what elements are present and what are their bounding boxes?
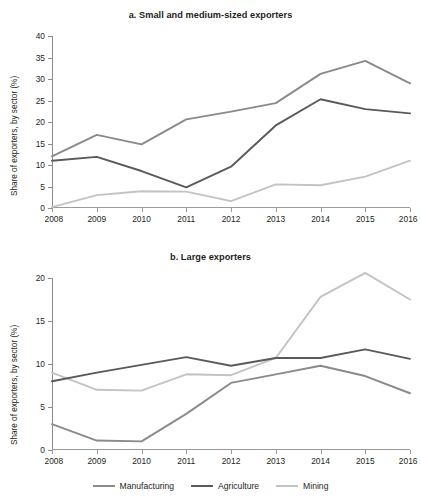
chart-a-x-tick xyxy=(365,208,366,212)
legend-item-mining[interactable]: Mining xyxy=(276,481,328,491)
chart-a-y-tick-label: 40 xyxy=(36,31,45,41)
legend-line-swatch-icon xyxy=(276,485,298,487)
legend-item-label: Manufacturing xyxy=(120,481,174,491)
chart-b-x-tick-label: 2013 xyxy=(266,456,285,466)
chart-b-x-tick xyxy=(365,450,366,454)
chart-a-y-axis-label: Share of exporters, by sector (%) xyxy=(10,76,19,196)
chart-b-x-tick-label: 2015 xyxy=(356,456,375,466)
chart-b-x-tick xyxy=(231,450,232,454)
chart-a-y-tick-label: 0 xyxy=(40,203,45,213)
chart-b-line-manufacturing xyxy=(52,366,410,442)
chart-b-y-tick xyxy=(48,407,52,408)
chart-b-y-axis-label: Share of exporters, by sector (%) xyxy=(10,325,19,445)
chart-a-y-tick xyxy=(48,122,52,123)
chart-a-y-tick xyxy=(48,101,52,102)
chart-b-x-tick-label: 2012 xyxy=(222,456,241,466)
chart-a-x-tick-label: 2013 xyxy=(266,214,285,224)
legend-item-label: Agriculture xyxy=(218,481,259,491)
chart-a-x-tick xyxy=(410,208,411,212)
chart-a-y-tick xyxy=(48,165,52,166)
chart-a-x-tick xyxy=(52,208,53,212)
chart-a-x-tick xyxy=(276,208,277,212)
chart-b-series-lines xyxy=(52,278,410,450)
chart-a-y-tick xyxy=(48,144,52,145)
chart-b-x-tick xyxy=(52,450,53,454)
chart-a-y-tick xyxy=(48,58,52,59)
chart-a-y-tick xyxy=(48,36,52,37)
chart-a-x-tick-label: 2009 xyxy=(87,214,106,224)
chart-b-x-tick-label: 2008 xyxy=(45,456,64,466)
chart-a-x-tick-label: 2014 xyxy=(311,214,330,224)
chart-a-y-tick-label: 15 xyxy=(36,139,45,149)
chart-b-x-tick-label: 2010 xyxy=(132,456,151,466)
chart-a-y-tick-label: 10 xyxy=(36,160,45,170)
chart-b-y-tick xyxy=(48,278,52,279)
chart-legend: ManufacturingAgricultureMining xyxy=(0,481,421,491)
chart-a-x-tick xyxy=(97,208,98,212)
chart-a-title: a. Small and medium-sized exporters xyxy=(0,10,421,20)
chart-b-x-tick xyxy=(410,450,411,454)
chart-b-title: b. Large exporters xyxy=(0,252,421,262)
chart-a-y-tick-label: 30 xyxy=(36,74,45,84)
chart-b-y-tick-label: 5 xyxy=(40,402,45,412)
chart-b-line-agriculture xyxy=(52,349,410,381)
chart-a-plot-area: 0510152025303540200820092010201120122013… xyxy=(52,36,410,208)
chart-b-x-tick-label: 2016 xyxy=(399,456,418,466)
chart-a-x-tick-label: 2015 xyxy=(356,214,375,224)
chart-b-y-tick xyxy=(48,321,52,322)
cut-off-header xyxy=(0,0,421,1)
chart-b-y-tick-label: 0 xyxy=(40,445,45,455)
chart-b-plot-area: 0510152020082009201020112012201320142015… xyxy=(52,278,410,450)
chart-a-x-tick xyxy=(142,208,143,212)
chart-b-x-tick xyxy=(186,450,187,454)
chart-a-x-tick-label: 2010 xyxy=(132,214,151,224)
chart-b-y-tick-label: 15 xyxy=(36,316,45,326)
chart-a-x-tick-label: 2016 xyxy=(399,214,418,224)
chart-a-y-tick-label: 25 xyxy=(36,96,45,106)
chart-a-y-tick-label: 20 xyxy=(36,117,45,127)
chart-a-series-lines xyxy=(52,36,410,208)
chart-a-x-tick xyxy=(231,208,232,212)
chart-b-x-tick-label: 2009 xyxy=(87,456,106,466)
chart-a-x-tick-label: 2012 xyxy=(222,214,241,224)
chart-b-line-mining xyxy=(52,273,410,391)
chart-a-x-tick-label: 2008 xyxy=(45,214,64,224)
chart-a-y-tick-label: 35 xyxy=(36,53,45,63)
chart-a-y-tick xyxy=(48,187,52,188)
legend-item-agriculture[interactable]: Agriculture xyxy=(191,481,259,491)
figure-container: a. Small and medium-sized exporters Shar… xyxy=(0,0,421,497)
chart-b-x-tick xyxy=(276,450,277,454)
legend-item-label: Mining xyxy=(303,481,328,491)
chart-b-y-tick xyxy=(48,364,52,365)
chart-b-x-tick-label: 2011 xyxy=(177,456,195,466)
chart-b-y-tick-label: 20 xyxy=(36,273,45,283)
chart-a-y-tick-label: 5 xyxy=(40,182,45,192)
chart-a-x-tick-label: 2011 xyxy=(177,214,195,224)
chart-a-x-tick xyxy=(321,208,322,212)
chart-a-x-tick xyxy=(186,208,187,212)
chart-a-line-manufacturing xyxy=(52,61,410,156)
chart-b-x-tick xyxy=(97,450,98,454)
chart-a-y-tick xyxy=(48,79,52,80)
legend-line-swatch-icon xyxy=(191,485,213,487)
chart-b-x-tick-label: 2014 xyxy=(311,456,330,466)
chart-b-x-tick xyxy=(321,450,322,454)
chart-b-y-tick-label: 10 xyxy=(36,359,45,369)
chart-b-x-tick xyxy=(142,450,143,454)
legend-item-manufacturing[interactable]: Manufacturing xyxy=(93,481,174,491)
legend-line-swatch-icon xyxy=(93,485,115,487)
